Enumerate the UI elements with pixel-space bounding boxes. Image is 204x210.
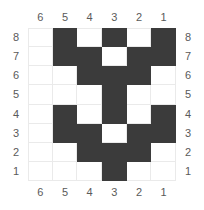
row-label-left: 4 — [6, 105, 26, 124]
grid-cell-r8-c3[interactable] — [102, 28, 127, 47]
column-label-top: 1 — [151, 8, 176, 26]
column-label-bottom: 5 — [53, 183, 78, 201]
grid-cell-r2-c4[interactable] — [77, 143, 102, 162]
grid-cell-r3-c3[interactable] — [102, 124, 127, 143]
row-label-left: 6 — [6, 66, 26, 85]
row-label-right: 7 — [178, 47, 198, 66]
grid-cell-r7-c5[interactable] — [53, 47, 78, 66]
grid-cell-r3-c1[interactable] — [151, 124, 176, 143]
grid-cell-r3-c4[interactable] — [77, 124, 102, 143]
grid-cell-r7-c4[interactable] — [77, 47, 102, 66]
column-label-bottom: 3 — [102, 183, 127, 201]
column-label-bottom: 1 — [151, 183, 176, 201]
grid-cell-r8-c1[interactable] — [151, 28, 176, 47]
grid-cell-r5-c4[interactable] — [77, 85, 102, 104]
grid-cell-r4-c4[interactable] — [77, 105, 102, 124]
grid-cell-r5-c3[interactable] — [102, 85, 127, 104]
puzzle-board: 6 5 4 3 2 1 8 7 6 5 4 3 2 1 8 7 6 5 4 3 … — [0, 0, 204, 210]
grid-cell-r4-c5[interactable] — [53, 105, 78, 124]
grid-cell-r1-c1[interactable] — [151, 162, 176, 181]
grid-cell-r2-c2[interactable] — [127, 143, 152, 162]
grid-cell-r1-c3[interactable] — [102, 162, 127, 181]
row-label-left: 8 — [6, 28, 26, 47]
row-label-left: 5 — [6, 85, 26, 104]
grid-container — [28, 28, 176, 181]
row-label-right: 1 — [178, 162, 198, 181]
grid-cell-r6-c6[interactable] — [28, 66, 53, 85]
grid-cell-r5-c1[interactable] — [151, 85, 176, 104]
grid-cell-r2-c5[interactable] — [53, 143, 78, 162]
column-label-top: 2 — [127, 8, 152, 26]
grid-cell-r5-c2[interactable] — [127, 85, 152, 104]
grid-cell-r6-c5[interactable] — [53, 66, 78, 85]
row-label-right: 2 — [178, 143, 198, 162]
row-label-right: 8 — [178, 28, 198, 47]
column-label-top: 4 — [77, 8, 102, 26]
row-label-right: 6 — [178, 66, 198, 85]
grid-cell-r2-c1[interactable] — [151, 143, 176, 162]
grid-cell-r3-c2[interactable] — [127, 124, 152, 143]
column-labels-top: 6 5 4 3 2 1 — [28, 8, 176, 26]
grid-cell-r4-c3[interactable] — [102, 105, 127, 124]
grid-cell-r8-c6[interactable] — [28, 28, 53, 47]
column-label-top: 5 — [53, 8, 78, 26]
column-label-bottom: 4 — [77, 183, 102, 201]
puzzle-grid[interactable] — [28, 28, 176, 181]
grid-cell-r7-c1[interactable] — [151, 47, 176, 66]
grid-cell-r5-c6[interactable] — [28, 85, 53, 104]
grid-cell-r5-c5[interactable] — [53, 85, 78, 104]
row-label-left: 3 — [6, 124, 26, 143]
grid-cell-r8-c4[interactable] — [77, 28, 102, 47]
grid-cell-r8-c5[interactable] — [53, 28, 78, 47]
grid-cell-r3-c6[interactable] — [28, 124, 53, 143]
grid-cell-r1-c2[interactable] — [127, 162, 152, 181]
grid-cell-r7-c3[interactable] — [102, 47, 127, 66]
column-label-top: 6 — [28, 8, 53, 26]
grid-cell-r2-c3[interactable] — [102, 143, 127, 162]
grid-cell-r6-c2[interactable] — [127, 66, 152, 85]
row-label-right: 4 — [178, 105, 198, 124]
grid-cell-r1-c5[interactable] — [53, 162, 78, 181]
row-label-left: 1 — [6, 162, 26, 181]
column-labels-bottom: 6 5 4 3 2 1 — [28, 183, 176, 201]
row-label-right: 3 — [178, 124, 198, 143]
grid-cell-r4-c2[interactable] — [127, 105, 152, 124]
grid-cell-r7-c2[interactable] — [127, 47, 152, 66]
grid-cell-r2-c6[interactable] — [28, 143, 53, 162]
column-label-bottom: 6 — [28, 183, 53, 201]
row-labels-right: 8 7 6 5 4 3 2 1 — [178, 28, 198, 181]
grid-cell-r6-c1[interactable] — [151, 66, 176, 85]
row-label-left: 7 — [6, 47, 26, 66]
grid-cell-r1-c4[interactable] — [77, 162, 102, 181]
grid-cell-r8-c2[interactable] — [127, 28, 152, 47]
grid-cell-r1-c6[interactable] — [28, 162, 53, 181]
grid-cell-r7-c6[interactable] — [28, 47, 53, 66]
row-label-left: 2 — [6, 143, 26, 162]
row-label-right: 5 — [178, 85, 198, 104]
grid-cell-r6-c3[interactable] — [102, 66, 127, 85]
grid-cell-r4-c6[interactable] — [28, 105, 53, 124]
row-labels-left: 8 7 6 5 4 3 2 1 — [6, 28, 26, 181]
grid-cell-r6-c4[interactable] — [77, 66, 102, 85]
column-label-bottom: 2 — [127, 183, 152, 201]
column-label-top: 3 — [102, 8, 127, 26]
grid-cell-r4-c1[interactable] — [151, 105, 176, 124]
grid-cell-r3-c5[interactable] — [53, 124, 78, 143]
